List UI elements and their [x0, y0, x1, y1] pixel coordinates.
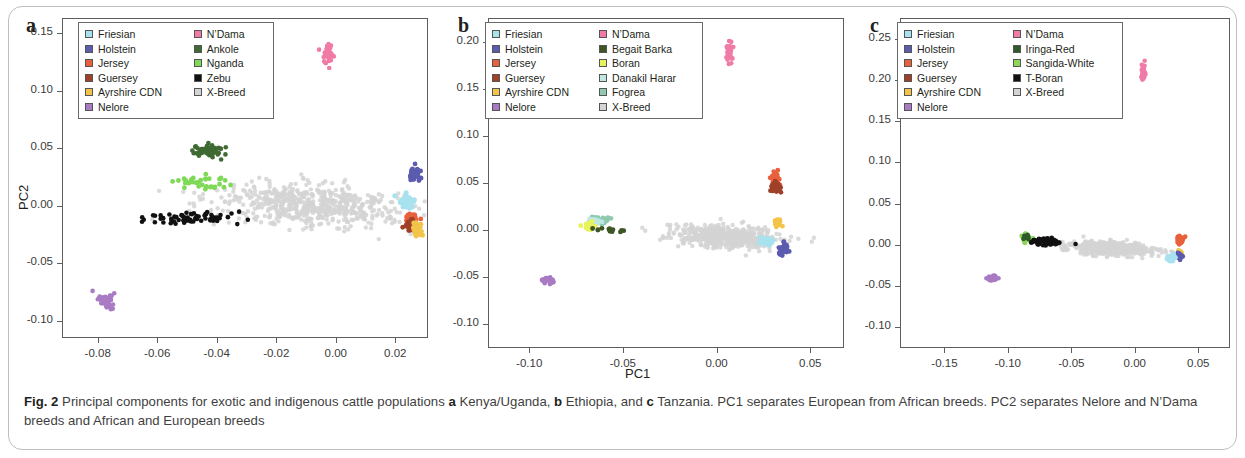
legend-item-xbreed: X-Breed — [1013, 85, 1116, 100]
legend-swatch-icon — [1013, 30, 1021, 38]
x-tick-label: -0.04 — [191, 347, 243, 359]
legend-swatch-icon — [194, 30, 202, 38]
legend-item-jersey: Jersey — [904, 56, 1003, 71]
legend-label: Boran — [612, 58, 640, 69]
legend-item-nelore: Nelore — [904, 100, 1003, 115]
legend-item-ndama: N’Dama — [194, 27, 267, 42]
y-tick-mark — [483, 277, 488, 278]
y-tick-mark — [483, 136, 488, 137]
legend-item-guersey: Guersey — [904, 71, 1003, 86]
legend-label: X-Breed — [207, 87, 246, 98]
x-tick-label: 0.00 — [1109, 357, 1161, 369]
legend-label: Sangida-White — [1026, 58, 1095, 69]
y-tick-mark — [895, 245, 900, 246]
legend-swatch-icon — [194, 59, 202, 67]
legend-swatch-icon — [85, 45, 93, 53]
x-tick-label: -0.10 — [982, 357, 1034, 369]
legend-item-ayrshire: Ayrshire CDN — [492, 85, 589, 100]
legend-label: Zebu — [207, 73, 231, 84]
legend-label: Danakil Harar — [612, 73, 676, 84]
caption-text-1: Principal components for exotic and indi… — [58, 394, 448, 409]
legend-item-nelore: Nelore — [85, 100, 184, 115]
legend-swatch-icon — [1013, 45, 1021, 53]
y-tick-label: -0.05 — [856, 278, 891, 290]
y-tick-label: 0.05 — [4, 140, 53, 152]
caption-letter-c: c — [646, 394, 653, 409]
legend-swatch-icon — [904, 30, 912, 38]
legend-swatch-icon — [904, 74, 912, 82]
y-tick-label: 0.10 — [4, 83, 53, 95]
y-tick-mark — [57, 91, 62, 92]
legend-label: N’Dama — [1026, 29, 1064, 40]
legend-label: Friesian — [917, 29, 954, 40]
panel-c: c 0.250.200.150.100.050.00-0.05-0.10-0.1… — [852, 0, 1245, 386]
y-tick-label: 0.15 — [856, 113, 891, 125]
x-tick-mark — [944, 348, 945, 353]
legend-label: X-Breed — [612, 102, 651, 113]
legend-swatch-icon — [1013, 59, 1021, 67]
x-tick-mark — [623, 348, 624, 353]
x-tick-label: 0.05 — [784, 357, 836, 369]
legend-item-friesian: Friesian — [492, 27, 589, 42]
legend-swatch-icon — [492, 103, 500, 111]
x-tick-mark — [1135, 348, 1136, 353]
x-tick-mark — [217, 338, 218, 343]
caption-text-2: Kenya/Uganda, — [456, 394, 554, 409]
legend-label: X-Breed — [1026, 87, 1065, 98]
legend-item-jersey: Jersey — [85, 56, 184, 71]
x-tick-label: 0.05 — [1172, 357, 1224, 369]
legend-item-xbreed: X-Breed — [599, 100, 696, 115]
y-tick-mark — [57, 321, 62, 322]
legend-swatch-icon — [904, 45, 912, 53]
caption-letter-b: b — [554, 394, 562, 409]
legend-swatch-icon — [904, 59, 912, 67]
x-tick-mark — [1198, 348, 1199, 353]
legend-label: Ankole — [207, 44, 239, 55]
legend-swatch-icon — [492, 45, 500, 53]
y-tick-mark — [57, 263, 62, 264]
panel-a-legend: FriesianHolsteinJerseyGuerseyAyrshire CD… — [78, 22, 274, 119]
legend-label: Guersey — [98, 73, 138, 84]
legend-item-holstein: Holstein — [85, 42, 184, 57]
x-tick-label: -0.08 — [72, 347, 124, 359]
legend-swatch-icon — [194, 45, 202, 53]
legend-label: Begait Barka — [612, 44, 672, 55]
legend-item-guersey: Guersey — [492, 71, 589, 86]
y-tick-mark — [57, 206, 62, 207]
y-tick-mark — [483, 230, 488, 231]
legend-swatch-icon — [85, 103, 93, 111]
y-tick-label: 0.05 — [444, 175, 479, 187]
legend-swatch-icon — [85, 59, 93, 67]
legend-label: Ayrshire CDN — [917, 87, 981, 98]
legend-label: Jersey — [917, 58, 948, 69]
y-tick-label: -0.05 — [4, 255, 53, 267]
legend-label: Nelore — [505, 102, 536, 113]
legend-label: Friesian — [98, 29, 135, 40]
legend-item-fogrea: Fogrea — [599, 85, 696, 100]
legend-item-begait_barka: Begait Barka — [599, 42, 696, 57]
caption-figure-number: Fig. 2 — [24, 394, 58, 409]
legend-label: T-Boran — [1026, 73, 1063, 84]
x-tick-mark — [336, 338, 337, 343]
legend-label: Nelore — [917, 102, 948, 113]
y-tick-label: -0.05 — [444, 269, 479, 281]
legend-item-holstein: Holstein — [492, 42, 589, 57]
legend-label: Jersey — [98, 58, 129, 69]
legend-swatch-icon — [599, 88, 607, 96]
legend-swatch-icon — [904, 103, 912, 111]
x-tick-mark — [98, 338, 99, 343]
legend-label: Holstein — [98, 44, 136, 55]
x-tick-mark — [395, 338, 396, 343]
legend-item-nganda: Nganda — [194, 56, 267, 71]
y-tick-label: 0.05 — [856, 196, 891, 208]
legend-item-xbreed: X-Breed — [194, 85, 267, 100]
legend-swatch-icon — [85, 30, 93, 38]
legend-swatch-icon — [599, 103, 607, 111]
caption-text-3: Ethiopia, and — [562, 394, 646, 409]
panel-b: b 0.200.150.100.050.00-0.05-0.10-0.10-0.… — [440, 0, 860, 386]
y-tick-mark — [483, 324, 488, 325]
y-tick-mark — [57, 148, 62, 149]
x-tick-mark — [810, 348, 811, 353]
legend-item-friesian: Friesian — [904, 27, 1003, 42]
y-tick-mark — [483, 183, 488, 184]
